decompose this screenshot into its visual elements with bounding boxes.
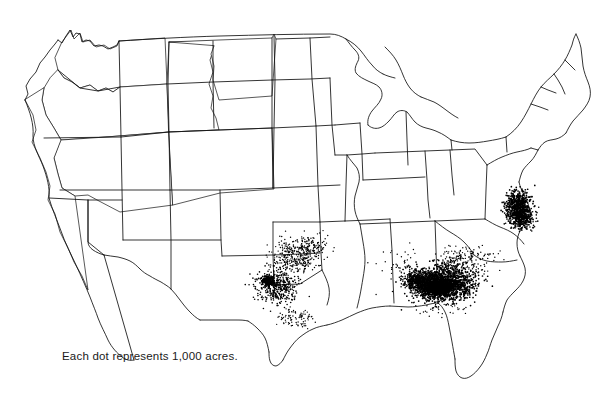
map-dot — [323, 241, 324, 242]
map-dot — [440, 268, 441, 269]
map-dot — [287, 262, 288, 263]
map-dot — [273, 271, 275, 273]
map-dot — [279, 294, 281, 296]
map-dot — [527, 196, 529, 198]
map-dot — [458, 284, 460, 286]
map-dot — [449, 270, 450, 271]
map-dot — [284, 265, 285, 266]
map-dot — [303, 271, 305, 273]
map-dot — [445, 287, 447, 289]
map-dot — [467, 271, 469, 273]
map-dot — [467, 266, 468, 267]
map-dot — [321, 250, 322, 251]
map-dot — [255, 288, 257, 290]
map-dot — [271, 284, 273, 286]
map-dot — [448, 251, 449, 252]
map-dot — [441, 301, 443, 303]
map-dot — [524, 204, 526, 206]
map-dot — [273, 281, 275, 283]
map-dot — [257, 293, 259, 295]
map-dot — [473, 249, 474, 250]
map-dot — [294, 264, 295, 265]
map-dot — [267, 290, 269, 292]
map-dot — [471, 253, 472, 254]
map-dot — [451, 281, 452, 282]
map-dot — [508, 219, 510, 221]
map-dot — [515, 212, 517, 214]
map-dot — [274, 294, 276, 296]
map-dot — [530, 218, 532, 220]
map-dot — [409, 285, 411, 287]
map-dot — [465, 255, 466, 256]
map-dot — [450, 264, 451, 265]
map-dot — [423, 289, 425, 291]
map-dot — [527, 202, 529, 204]
map-dot — [511, 192, 513, 194]
map-dot — [296, 284, 298, 286]
map-dot — [285, 319, 286, 320]
map-dot — [290, 302, 292, 304]
map-dot — [279, 266, 280, 267]
map-dot — [466, 276, 467, 277]
map-dot — [516, 224, 518, 226]
map-dot — [267, 244, 268, 245]
map-dot — [303, 250, 304, 251]
map-dot — [294, 296, 296, 298]
map-dot — [436, 301, 437, 302]
map-dot — [285, 316, 286, 317]
map-dot — [528, 222, 530, 224]
map-dot — [284, 257, 285, 258]
map-dot — [410, 278, 411, 279]
map-dot — [509, 206, 511, 208]
map-dot — [472, 281, 474, 283]
map-dot — [425, 282, 427, 284]
map-dot — [402, 279, 404, 281]
map-dot — [434, 281, 436, 283]
map-dot — [404, 283, 405, 284]
map-dot — [420, 284, 422, 286]
map-dot — [265, 290, 267, 292]
map-dot — [282, 248, 283, 249]
map-dot — [277, 281, 279, 283]
map-dot — [474, 263, 475, 264]
map-dot — [528, 216, 530, 218]
map-dot — [530, 213, 532, 215]
map-dot — [301, 236, 302, 237]
map-dot — [280, 272, 281, 273]
map-dot — [487, 270, 488, 271]
map-dot — [285, 315, 286, 316]
map-dot — [504, 207, 506, 209]
map-dot — [432, 292, 434, 294]
map-dot — [534, 226, 536, 228]
map-dot — [463, 296, 465, 298]
map-dot — [522, 198, 524, 200]
map-dot — [522, 212, 524, 214]
map-dot — [300, 317, 301, 318]
map-dot — [294, 259, 295, 260]
map-dot — [527, 206, 529, 208]
map-dot — [478, 254, 479, 255]
map-dot — [296, 318, 297, 319]
map-dot — [299, 252, 300, 253]
map-dot — [433, 273, 434, 274]
map-dot — [478, 268, 479, 269]
map-dot — [305, 310, 306, 311]
map-dot — [289, 286, 291, 288]
map-dot — [478, 246, 479, 247]
map-dot — [530, 229, 532, 231]
map-dot — [525, 192, 527, 194]
map-dot — [382, 270, 383, 271]
map-dot — [313, 244, 314, 245]
map-dot — [409, 271, 411, 273]
map-dot — [426, 301, 427, 302]
map-dot — [308, 296, 310, 298]
map-dot — [293, 246, 294, 247]
map-dot — [273, 296, 275, 298]
map-dot — [266, 289, 268, 291]
map-dot — [288, 315, 289, 316]
map-dot — [285, 258, 286, 259]
map-dot — [288, 284, 290, 286]
map-dot — [449, 262, 450, 263]
map-dot — [437, 287, 439, 289]
map-dot — [460, 256, 461, 257]
